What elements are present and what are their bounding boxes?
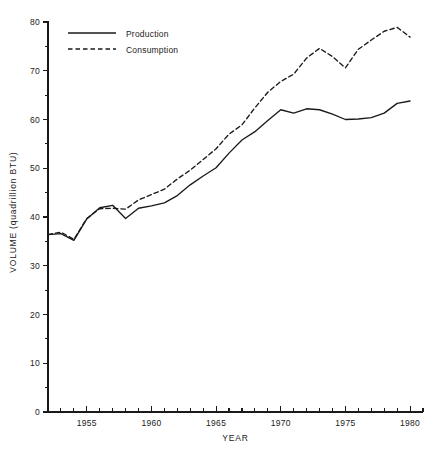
line-chart-figure: 01020304050607080 VOLUME (quadrillion BT… — [0, 0, 440, 459]
x-tick-label: 1965 — [206, 418, 226, 428]
x-axis-group: 195519601965197019751980 YEAR — [48, 406, 423, 443]
x-tick-label: 1960 — [141, 418, 161, 428]
x-tick-label: 1955 — [77, 418, 97, 428]
data-series-layer — [48, 27, 410, 240]
x-tick-label: 1970 — [271, 418, 291, 428]
chart-canvas: 01020304050607080 VOLUME (quadrillion BT… — [0, 0, 440, 459]
series-line-production — [48, 101, 410, 240]
y-tick-label: 0 — [35, 407, 40, 417]
y-tick-label: 30 — [30, 261, 40, 271]
y-tick-label: 40 — [30, 212, 40, 222]
chart-legend: ProductionConsumption — [68, 29, 178, 55]
y-axis-title: VOLUME (quadrillion BTU) — [8, 152, 18, 273]
x-axis-title: YEAR — [222, 433, 248, 443]
y-tick-label: 80 — [30, 17, 40, 27]
y-tick-label: 10 — [30, 358, 40, 368]
y-tick-label: 60 — [30, 115, 40, 125]
x-tick-label: 1975 — [335, 418, 355, 428]
y-axis-group: 01020304050607080 VOLUME (quadrillion BT… — [8, 17, 48, 417]
legend-label-consumption: Consumption — [126, 45, 178, 55]
y-tick-label: 20 — [30, 310, 40, 320]
y-axis-major-ticks — [43, 22, 48, 412]
x-axis-tick-labels: 195519601965197019751980 — [77, 418, 420, 428]
x-axis-minor-ticks — [48, 408, 423, 412]
legend-label-production: Production — [126, 29, 169, 39]
y-axis-tick-labels: 01020304050607080 — [30, 17, 40, 417]
x-tick-label: 1980 — [400, 418, 420, 428]
y-tick-label: 50 — [30, 163, 40, 173]
x-axis-major-ticks — [87, 406, 410, 412]
y-tick-label: 70 — [30, 66, 40, 76]
